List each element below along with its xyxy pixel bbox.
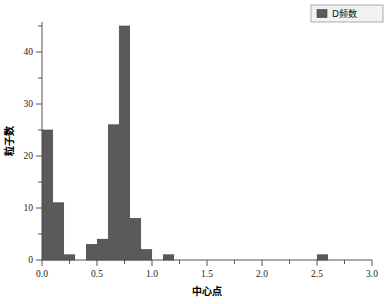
- histogram-bar: [317, 255, 327, 260]
- y-axis-ticks: [36, 26, 42, 260]
- x-tick-label: 2.5: [311, 269, 323, 279]
- histogram-bar: [141, 250, 151, 260]
- y-axis-tick-labels: 0 10 20 30 40: [24, 47, 34, 265]
- histogram-bar: [42, 130, 52, 260]
- histogram-bar: [108, 125, 118, 260]
- y-tick-label: 30: [24, 99, 34, 109]
- x-tick-label: 1.5: [201, 269, 213, 279]
- x-tick-label: 1.0: [146, 269, 158, 279]
- histogram-bar: [163, 255, 173, 260]
- y-tick-label: 40: [24, 47, 34, 57]
- histogram-bar: [86, 244, 96, 260]
- plot-area-background: [42, 22, 372, 260]
- x-tick-label: 0.0: [36, 269, 48, 279]
- x-axis-ticks: [42, 260, 372, 266]
- legend: D频数: [311, 5, 383, 22]
- y-tick-label: 20: [24, 151, 34, 161]
- histogram-bar: [53, 203, 63, 260]
- histogram-bar: [119, 26, 129, 260]
- histogram-bar: [64, 255, 74, 260]
- x-tick-label: 3.0: [366, 269, 378, 279]
- legend-swatch-icon: [317, 10, 327, 18]
- chart-svg: 0 10 20 30 40 0.0 0.5 1.0 1.5: [0, 0, 389, 304]
- x-tick-label: 0.5: [91, 269, 103, 279]
- x-axis-tick-labels: 0.0 0.5 1.0 1.5 2.0 2.5 3.0: [36, 269, 378, 279]
- x-axis-title: 中心点: [192, 285, 222, 297]
- histogram-chart: 0 10 20 30 40 0.0 0.5 1.0 1.5: [0, 0, 389, 304]
- legend-label: D频数: [332, 8, 357, 19]
- y-tick-label: 0: [28, 255, 33, 265]
- y-tick-label: 10: [24, 203, 34, 213]
- histogram-bar: [130, 218, 140, 260]
- x-tick-label: 2.0: [256, 269, 268, 279]
- y-axis-title: 粒子数: [3, 125, 15, 156]
- histogram-bar: [97, 239, 107, 260]
